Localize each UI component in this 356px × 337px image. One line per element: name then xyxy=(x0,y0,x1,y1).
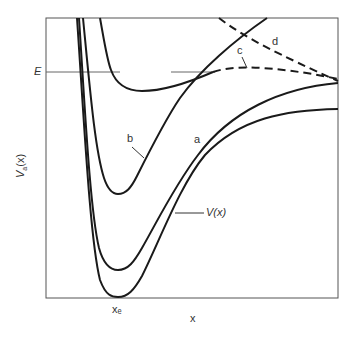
x-axis-label: x xyxy=(190,313,196,324)
y-axis-label-sub: a xyxy=(21,167,28,171)
label-a: a xyxy=(194,134,200,145)
y-axis-label: Va(x) xyxy=(14,154,28,178)
y-axis-label-main: V xyxy=(14,171,26,178)
curve-c-dashed xyxy=(213,67,338,79)
equilibrium-label: xₑ xyxy=(112,304,122,315)
label-b: b xyxy=(127,133,133,144)
curve-upper-bound xyxy=(100,18,213,91)
label-d: d xyxy=(272,36,278,47)
label-c: c xyxy=(237,45,243,56)
label-v-x: V(x) xyxy=(206,207,226,218)
y-axis-label-tail: (x) xyxy=(14,154,26,167)
leader-c xyxy=(242,57,247,68)
energy-label: E xyxy=(34,66,41,77)
leader-b xyxy=(132,147,144,158)
curve-v-x xyxy=(77,18,338,297)
curve-a xyxy=(79,18,338,270)
plot-frame xyxy=(46,18,338,298)
potential-energy-diagram: E b a c d V(x) xₑ x Va(x) xyxy=(0,0,356,337)
